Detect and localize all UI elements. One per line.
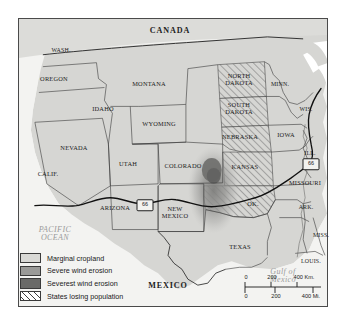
legend-label: Severest wind erosion	[47, 279, 118, 288]
legend-item: Marginal cropland	[20, 252, 155, 265]
route-66-shield-icon: 66	[303, 158, 320, 170]
scale-mi-tick-400: 400 Mi.	[302, 293, 320, 299]
map-screenshot: WASH.OREGONIDAHOMONTANAWYOMINGNEVADACALI…	[0, 0, 346, 324]
legend-label: Marginal cropland	[47, 254, 104, 263]
marginal-cropland-swatch	[20, 253, 41, 263]
route-66-shield-icon: 66	[137, 199, 154, 211]
scale-km-tick-200: 200	[267, 274, 276, 280]
severest-wind-erosion-swatch	[20, 278, 41, 288]
scale-km-tick-400: 400 Km.	[294, 274, 315, 280]
scale-bar: 0 200 400 Km. 0 200 400 Mi.	[243, 274, 325, 302]
legend-label: Severe wind erosion	[47, 266, 112, 275]
legend-item: Severest wind erosion	[20, 277, 155, 290]
scale-mi-tick-0: 0	[244, 293, 247, 299]
map-legend: Marginal cropland Severe wind erosion Se…	[20, 252, 155, 302]
legend-item: States losing population	[20, 290, 155, 303]
legend-item: Severe wind erosion	[20, 265, 155, 278]
scale-mi-tick-200: 200	[271, 293, 280, 299]
states-losing-population-swatch	[20, 291, 41, 301]
scale-km-tick-0: 0	[244, 274, 247, 280]
severe-wind-erosion-swatch	[20, 266, 41, 276]
legend-label: States losing population	[47, 292, 123, 301]
